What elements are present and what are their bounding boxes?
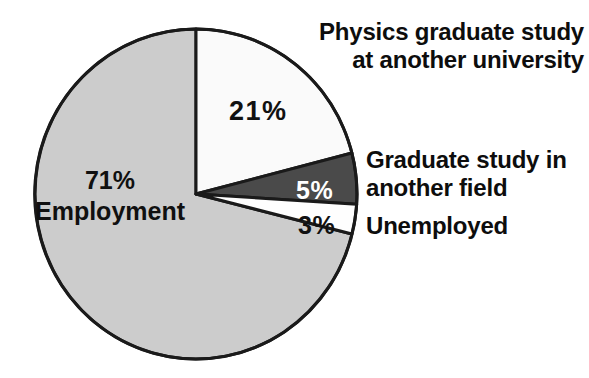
slice-value-graduate-study-another-field: 5%: [296, 176, 333, 205]
slice-value-unemployed: 3%: [298, 211, 335, 240]
slice-label-physics-graduate-study: Physics graduate study at another univer…: [269, 18, 584, 74]
slice-label-graduate-study-another-field: Graduate study in another field: [366, 146, 588, 202]
slice-value-physics-graduate-study: 21%: [229, 96, 288, 127]
pie-chart: Physics graduate study at another univer…: [0, 0, 589, 378]
slice-label-unemployed: Unemployed: [366, 212, 588, 240]
slice-label-employment: 71% Employment: [24, 165, 196, 227]
